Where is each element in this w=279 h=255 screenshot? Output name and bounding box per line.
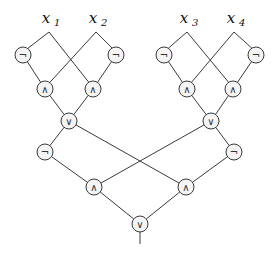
wire: [50, 95, 64, 114]
gate-symbol: ¬: [41, 147, 49, 158]
wire: [216, 127, 229, 145]
and-gate: ∧: [37, 81, 53, 97]
edges: [27, 32, 251, 244]
wire: [191, 32, 234, 82]
gate-symbol: ∧: [89, 84, 96, 95]
wire: [216, 96, 229, 115]
gate-symbol: ∧: [182, 182, 189, 193]
gate-symbol: ∧: [229, 84, 236, 95]
variable-subscript: 3: [192, 17, 198, 28]
gate-symbol: ¬: [19, 50, 27, 61]
variable-subscript: 2: [100, 17, 107, 28]
variable-subscript: 1: [54, 17, 60, 28]
and-gate: ∧: [86, 179, 102, 195]
wire: [234, 32, 252, 48]
not-gate: ¬: [37, 144, 53, 160]
wire: [101, 125, 204, 183]
and-gate: ∧: [85, 81, 101, 97]
or-gate: ∨: [132, 216, 148, 232]
wire: [187, 32, 229, 82]
or-gate: ∨: [61, 113, 77, 129]
or-gate: ∨: [203, 113, 219, 129]
input-variable-x2: x2: [89, 9, 108, 28]
gates: ¬¬∧∧∨¬¬∧∧∨¬¬∧∧∨: [15, 47, 264, 232]
wire: [49, 32, 89, 82]
not-gate: ¬: [156, 47, 172, 63]
circuit-diagram: ¬¬∧∧∨¬¬∧∧∨¬¬∧∧∨ x1x2x3x4: [0, 0, 279, 255]
input-variable-x3: x3: [180, 9, 199, 28]
gate-symbol: ∨: [136, 219, 143, 230]
not-gate: ¬: [248, 47, 264, 63]
and-gate: ∧: [178, 179, 194, 195]
wire: [192, 95, 206, 114]
input-variable-x1: x1: [42, 9, 61, 28]
and-gate: ∧: [225, 81, 241, 97]
variable-name: x: [180, 9, 189, 27]
not-gate: ¬: [226, 144, 242, 160]
gate-symbol: ¬: [252, 50, 260, 61]
inputs: x1x2x3x4: [42, 9, 246, 28]
gate-symbol: ∨: [207, 116, 214, 127]
variable-name: x: [227, 9, 236, 27]
not-gate: ¬: [15, 47, 31, 63]
wire: [96, 32, 112, 48]
and-gate: ∧: [179, 81, 195, 97]
not-gate: ¬: [108, 47, 124, 63]
wire: [146, 192, 180, 219]
variable-name: x: [89, 9, 98, 27]
wire: [27, 62, 40, 83]
wire: [50, 32, 96, 83]
wire: [168, 62, 182, 83]
gate-symbol: ∧: [183, 84, 190, 95]
wire: [74, 95, 88, 114]
wire: [192, 157, 227, 183]
wire: [168, 32, 187, 48]
input-variable-x4: x4: [227, 9, 246, 28]
gate-symbol: ∧: [90, 182, 97, 193]
gate-symbol: ∨: [65, 116, 72, 127]
gate-symbol: ∧: [41, 84, 48, 95]
variable-subscript: 4: [238, 17, 245, 28]
gate-symbol: ¬: [160, 50, 168, 61]
wire: [97, 62, 111, 83]
gate-symbol: ¬: [112, 50, 120, 61]
wire: [100, 192, 134, 219]
variable-name: x: [42, 9, 51, 27]
wire: [237, 62, 251, 83]
gate-symbol: ¬: [230, 147, 238, 158]
wire: [52, 157, 88, 183]
wire: [28, 32, 49, 49]
wire: [76, 125, 179, 183]
wire: [50, 127, 64, 145]
